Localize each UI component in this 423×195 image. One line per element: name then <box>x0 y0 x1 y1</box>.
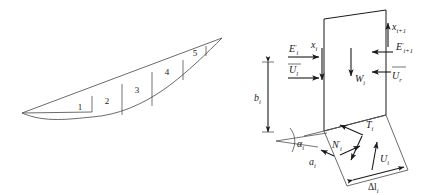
label-x-i: xi <box>310 39 317 52</box>
label-U-l: Ul <box>289 64 298 77</box>
label-T-i: Ti <box>366 119 374 132</box>
slice-label-4: 4 <box>165 67 170 77</box>
ground-line-left <box>22 112 92 113</box>
slice-label-2: 2 <box>105 96 110 106</box>
label-alpha-i: αi <box>297 138 304 151</box>
label-x-i-plus-1: xi+1 <box>391 21 406 34</box>
figure-svg: 1 2 3 4 5 bi E′ <box>0 0 423 195</box>
label-W-i: Wi <box>355 73 365 86</box>
label-U-i: Ui <box>380 153 389 166</box>
label-a-i: ai <box>309 156 316 169</box>
slice-body-outline <box>324 10 386 131</box>
arrow-U-i <box>372 142 377 170</box>
slice-label-3: 3 <box>135 85 140 95</box>
sliding-mass-group: 1 2 3 4 5 <box>22 38 222 120</box>
free-body-group: bi E′i Ul xi Wi xi+1 E′i+1 Ur <box>254 10 413 194</box>
label-delta-l-i: Δli <box>368 182 379 194</box>
slice-label-1: 1 <box>78 102 83 112</box>
label-N-prime-i: N′i <box>331 139 342 152</box>
figure-root: 1 2 3 4 5 bi E′ <box>0 0 423 195</box>
label-U-r: Ur <box>392 70 402 83</box>
slice-label-5: 5 <box>193 48 198 58</box>
arrow-N-prime-i <box>351 136 362 160</box>
alpha-arc <box>290 128 295 152</box>
label-b-i: bi <box>254 92 261 105</box>
arrow-T-i <box>340 125 363 135</box>
label-E-prime-i-plus-1: E′i+1 <box>395 41 413 54</box>
label-E-prime-i: E′i <box>288 43 299 56</box>
